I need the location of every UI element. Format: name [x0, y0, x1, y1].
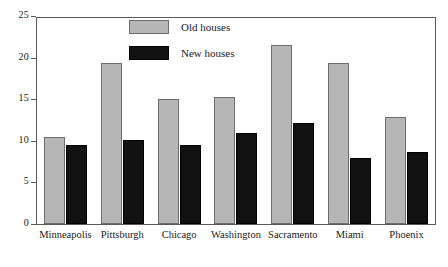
- legend-label-old-houses: Old houses: [181, 19, 230, 35]
- x-axis-label: Washington: [208, 228, 265, 242]
- bar-new-houses: [350, 158, 371, 224]
- bar-old-houses: [385, 117, 406, 224]
- y-tick-label: 25: [19, 9, 29, 20]
- x-axis-labels: MinneapolisPittsburghChicagoWashingtonSa…: [37, 228, 435, 246]
- old-houses-swatch-icon: [129, 20, 169, 34]
- legend-item-new-houses: New houses: [129, 44, 259, 66]
- bar-old-houses: [328, 63, 349, 225]
- x-axis-label: Chicago: [151, 228, 208, 242]
- bar-group: [264, 18, 321, 224]
- x-axis-label: Sacramento: [264, 228, 321, 242]
- x-axis-label: Minneapolis: [37, 228, 94, 242]
- bar-new-houses: [407, 152, 428, 224]
- bar-new-houses: [180, 145, 201, 224]
- y-axis: 0 5 10 15 20 25: [0, 17, 36, 225]
- new-houses-swatch-icon: [129, 46, 169, 60]
- bar-group: [37, 18, 94, 224]
- bar-new-houses: [236, 133, 257, 224]
- bar-old-houses: [101, 63, 122, 224]
- x-axis-label: Miami: [321, 228, 378, 242]
- y-tick-label: 0: [24, 217, 29, 228]
- bar-old-houses: [214, 97, 235, 224]
- x-axis-label: Pittsburgh: [94, 228, 151, 242]
- bar-new-houses: [66, 145, 87, 224]
- bar-group: [321, 18, 378, 224]
- y-tick-label: 10: [19, 134, 29, 145]
- legend-label-new-houses: New houses: [181, 45, 234, 61]
- legend-item-old-houses: Old houses: [129, 18, 259, 40]
- bar-new-houses: [123, 140, 144, 224]
- x-axis-label: Phoenix: [378, 228, 435, 242]
- chart-legend: Old houses New houses: [129, 18, 259, 70]
- bar-old-houses: [158, 99, 179, 224]
- bar-new-houses: [293, 123, 314, 224]
- bar-old-houses: [271, 45, 292, 224]
- y-tick-label: 20: [19, 51, 29, 62]
- bar-group: [378, 18, 435, 224]
- bar-chart: 0 5 10 15 20 25 MinneapolisPittsburghChi…: [0, 0, 448, 267]
- bar-old-houses: [44, 137, 65, 224]
- y-tick-label: 15: [19, 92, 29, 103]
- y-tick-label: 5: [24, 175, 29, 186]
